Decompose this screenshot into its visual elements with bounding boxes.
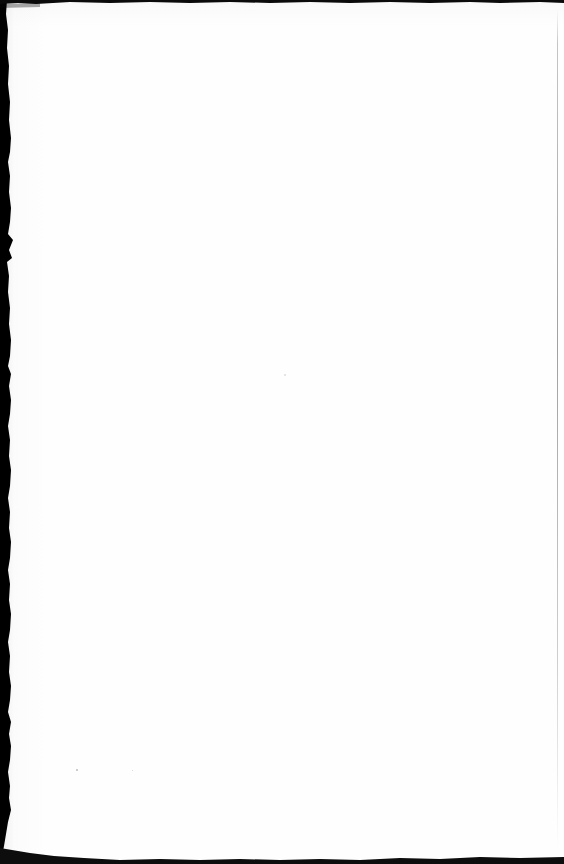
speck-lower-left xyxy=(76,769,78,771)
scanned-page: Blank scanned page xyxy=(0,0,564,864)
right-edge-rule xyxy=(557,10,558,850)
top-edge-band-shape xyxy=(0,0,564,12)
gutter-shadow xyxy=(0,0,26,864)
bottom-edge-band xyxy=(0,848,564,864)
gutter-shadow-shape xyxy=(0,0,26,864)
paper-surface xyxy=(0,0,564,864)
top-edge-band xyxy=(0,0,564,12)
bottom-edge-band-shape xyxy=(0,848,564,864)
